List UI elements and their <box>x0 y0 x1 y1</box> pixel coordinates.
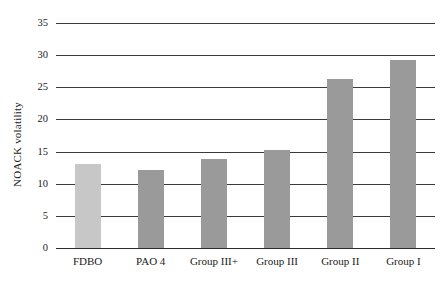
y-tick-label: 0 <box>20 243 48 253</box>
x-tick-label: Group II <box>309 255 372 267</box>
y-tick-label: 20 <box>20 114 48 124</box>
x-tick-label: PAO 4 <box>119 255 182 267</box>
bars-layer <box>56 23 435 248</box>
y-tick-label: 35 <box>20 18 48 28</box>
bar <box>75 164 101 248</box>
bar <box>138 170 164 248</box>
y-tick-label: 15 <box>20 147 48 157</box>
y-tick-label: 5 <box>20 211 48 221</box>
gridline-0 <box>56 248 435 249</box>
plot-area <box>56 23 435 248</box>
x-tick-label: Group I <box>372 255 435 267</box>
bar <box>201 159 227 248</box>
bar <box>327 79 353 248</box>
x-tick-label: FDBO <box>56 255 119 267</box>
x-tick-label: Group III+ <box>182 255 245 267</box>
y-tick-label: 25 <box>20 82 48 92</box>
x-tick-label: Group III <box>246 255 309 267</box>
y-tick-label: 10 <box>20 179 48 189</box>
noack-volatility-bar-chart: NOACK volatility 05101520253035 FDBOPAO … <box>0 0 441 289</box>
bar <box>264 150 290 248</box>
y-tick-label: 30 <box>20 50 48 60</box>
x-axis-tick-labels: FDBOPAO 4Group III+Group IIIGroup IIGrou… <box>56 255 435 277</box>
bar <box>390 60 416 248</box>
